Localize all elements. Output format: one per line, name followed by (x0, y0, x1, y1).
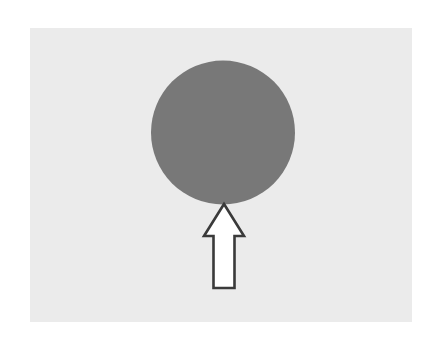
image-canvas (0, 0, 440, 338)
figure-svg (0, 0, 440, 338)
gray-circle (151, 61, 295, 205)
